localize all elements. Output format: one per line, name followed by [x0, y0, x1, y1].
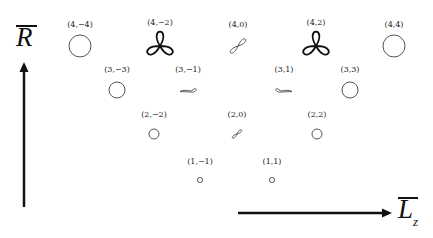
circle-icon	[149, 129, 159, 139]
figure-eight-icon	[232, 130, 241, 139]
circle-icon	[270, 178, 275, 183]
circle-icon	[383, 35, 405, 57]
circle-icon	[69, 35, 91, 57]
tadpole-mirrored-icon	[276, 89, 292, 92]
tadpole-icon	[180, 89, 196, 92]
trefoil-icon	[147, 32, 173, 55]
trefoil-icon	[303, 32, 329, 55]
circle-icon	[109, 82, 125, 98]
circle-icon	[342, 82, 358, 98]
figure-eight-icon	[230, 39, 246, 53]
circle-icon	[312, 129, 322, 139]
circle-icon	[198, 178, 203, 183]
state-shapes	[0, 0, 433, 238]
